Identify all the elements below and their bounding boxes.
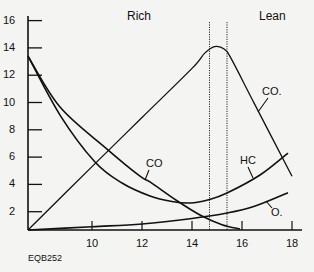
y-tick-label: 2 [9,206,15,217]
y-tick-label: 12 [3,69,15,80]
y-tick-label: 10 [3,97,15,108]
x-tick-label: 12 [136,238,148,249]
y-tick-label: 14 [3,42,15,53]
series-line-co [28,56,240,229]
emissions-chart [0,0,314,272]
y-tick-label: 8 [9,124,15,135]
series-label-hc: HC [240,155,256,166]
leader-co2 [258,98,268,112]
x-tick-label: 16 [236,238,248,249]
x-tick-label: 18 [286,238,298,249]
y-tick-label: 16 [3,15,15,26]
figure-code: EQB252 [28,254,62,263]
series-line-hc [28,56,288,203]
y-tick-label: 4 [9,178,15,189]
series-lines [28,46,292,230]
series-label-o2: O. [271,207,283,218]
series-line-co2 [28,46,292,230]
leader-co [145,170,149,180]
region-label-lean: Lean [259,10,286,22]
y-tick-label: 6 [9,151,15,162]
series-label-co: CO [146,158,163,169]
leader-hc [248,167,253,178]
axes [28,16,302,230]
series-label-co2: CO. [262,86,282,97]
chart-figure: 246810121416 1012141618 Rich Lean CO. HC… [0,0,314,272]
x-tick-label: 14 [186,238,198,249]
x-tick-label: 10 [86,238,98,249]
region-label-rich: Rich [127,10,151,22]
